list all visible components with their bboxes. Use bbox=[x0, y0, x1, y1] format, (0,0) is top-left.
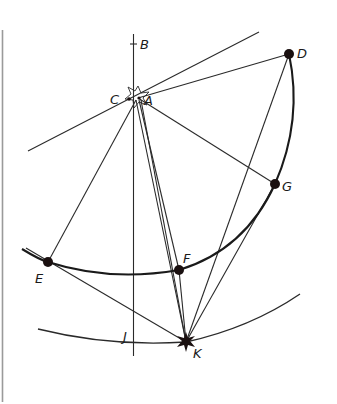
point-E bbox=[43, 257, 53, 267]
label-D: D bbox=[297, 46, 307, 61]
line-A-K-outer bbox=[136, 100, 186, 342]
label-B: B bbox=[140, 37, 149, 52]
point-C bbox=[127, 97, 131, 101]
point-A bbox=[137, 96, 140, 99]
point-F bbox=[174, 265, 184, 275]
label-K: K bbox=[193, 346, 203, 361]
label-F: F bbox=[183, 251, 191, 266]
label-A: A bbox=[143, 93, 153, 108]
line-D-K bbox=[186, 54, 289, 342]
point-G bbox=[270, 179, 280, 189]
main-arc bbox=[22, 54, 294, 275]
line-A-F bbox=[139, 100, 179, 270]
label-G: G bbox=[282, 179, 292, 194]
line-A-G bbox=[138, 98, 275, 184]
label-E: E bbox=[35, 271, 44, 286]
line-A-E bbox=[48, 100, 136, 262]
line-F-K bbox=[179, 270, 186, 342]
lower-arc bbox=[38, 294, 300, 343]
line-A-D bbox=[138, 54, 289, 98]
line-A-K-inner bbox=[141, 100, 186, 342]
construction-diagram: B C A D G F E J K bbox=[0, 0, 337, 404]
label-C: C bbox=[110, 92, 120, 107]
point-D bbox=[284, 49, 294, 59]
